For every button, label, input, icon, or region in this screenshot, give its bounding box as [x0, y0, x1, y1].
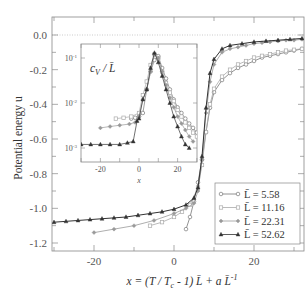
main-data-point — [268, 52, 271, 55]
inset-data-point — [114, 117, 117, 120]
x-tick-label: 0 — [171, 255, 177, 267]
inset-data-point — [172, 99, 175, 102]
legend-label: L̄ = 5.58 — [244, 189, 280, 200]
main-data-point — [92, 231, 96, 235]
legend-label: L̄ = 22.31 — [244, 216, 285, 227]
y-tick-label: -0.2 — [30, 64, 47, 76]
main-data-point — [260, 54, 263, 57]
main-data-point — [244, 43, 248, 47]
x-axis-title-sup: -1 — [231, 273, 238, 282]
main-data-point — [208, 71, 212, 75]
main-data-point — [212, 87, 215, 90]
main-data-point — [228, 71, 232, 75]
main-data-point — [172, 212, 176, 216]
x-axis-title-part2: - 1) L̄ + a L̄ — [174, 275, 231, 288]
legend-marker — [236, 206, 239, 209]
main-data-point — [220, 75, 223, 78]
y-tick-label: 0.0 — [33, 29, 47, 41]
main-data-point — [252, 56, 255, 59]
main-data-point — [160, 221, 163, 224]
x-axis-title: x = (T / Tc - 1) L̄ + a L̄-1 — [126, 273, 238, 290]
inset-data-point — [191, 131, 194, 134]
main-data-point — [208, 103, 211, 106]
inset-x-tick-label: 0 — [137, 165, 141, 174]
inset-y-tick-label: 10-2 — [65, 99, 78, 108]
inset-y-tick-label: 10-3 — [65, 144, 78, 153]
inset-x-tick-label: -20 — [95, 165, 106, 174]
x-tick-label: 20 — [249, 255, 261, 267]
main-data-point — [152, 218, 156, 222]
main-data-point — [300, 47, 303, 50]
inset-x-axis-title: x — [136, 176, 141, 185]
x-axis-title-part1: x = (T / T — [126, 275, 173, 288]
main-data-point — [236, 45, 240, 49]
main-data-point — [188, 215, 192, 219]
main-data-point — [236, 66, 240, 70]
main-data-point — [228, 47, 232, 51]
inset-data-point — [195, 131, 199, 135]
legend-marker — [219, 192, 223, 196]
inset-data-point — [130, 115, 133, 118]
main-data-point — [252, 59, 256, 63]
main-data-point — [284, 49, 287, 52]
inset-plot: -2002010-110-210-3 — [65, 44, 199, 174]
inset-data-point — [141, 111, 145, 115]
y-tick-label: -0.6 — [30, 133, 48, 145]
main-data-point — [228, 68, 231, 71]
inset-data-point — [180, 115, 183, 118]
main-data-point — [292, 48, 295, 51]
inset-x-tick-label: 20 — [174, 165, 182, 174]
inset-data-point — [133, 116, 137, 120]
main-data-point — [244, 63, 248, 67]
inset-data-point — [184, 121, 187, 124]
main-data-point — [244, 59, 247, 62]
main-data-point — [184, 227, 188, 231]
legend: L̄ = 5.58L̄ = 11.16L̄ = 22.31L̄ = 52.62 — [215, 183, 300, 244]
legend-label: L̄ = 11.16 — [244, 202, 284, 213]
main-data-point — [204, 106, 208, 110]
y-tick-label: -1.2 — [30, 237, 47, 249]
inset-data-point — [176, 108, 179, 111]
y-tick-label: -0.8 — [30, 168, 48, 180]
y-tick-label: -1.0 — [30, 202, 48, 214]
inset-data-point — [187, 122, 191, 126]
legend-marker — [236, 192, 240, 196]
main-data-point — [276, 51, 279, 54]
main-data-point — [112, 227, 116, 231]
legend-marker — [219, 206, 222, 209]
y-axis-title: Potential energy u — [12, 96, 25, 180]
inset-data-point — [122, 116, 125, 119]
main-data-point — [236, 63, 239, 66]
inset-data-point — [184, 117, 188, 121]
y-tick-label: -0.4 — [30, 98, 48, 110]
figure: -200200.0-0.2-0.4-0.6-0.8-1.0-1.2 -20020… — [0, 0, 307, 297]
main-data-point — [132, 224, 136, 228]
inset-y-tick-label: 10-1 — [65, 54, 78, 63]
inset-data-point — [187, 126, 190, 129]
x-tick-label: -20 — [87, 255, 102, 267]
inset-title-rest: / L̄ — [100, 62, 115, 74]
inset-data-point — [195, 135, 198, 138]
legend-label: L̄ = 52.62 — [244, 229, 285, 240]
inset-data-point — [191, 126, 195, 130]
main-data-point — [148, 224, 151, 227]
